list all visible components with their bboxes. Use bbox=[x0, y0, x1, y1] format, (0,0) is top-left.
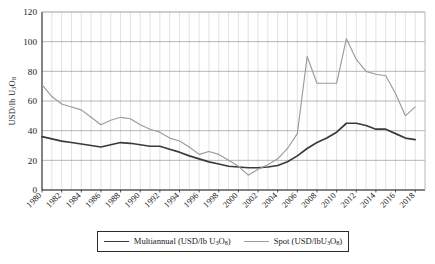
y-axis-title-prefix: USD/lb U bbox=[7, 90, 17, 126]
x-tick-label-2004: 2004 bbox=[260, 190, 280, 210]
legend-line-swatch-spot bbox=[244, 241, 269, 242]
x-tick-label-1982: 1982 bbox=[44, 190, 63, 209]
x-tick-label-1996: 1996 bbox=[181, 190, 201, 210]
legend-multiannual-suffix: ) bbox=[228, 236, 231, 246]
x-axis-tick-labels: 1980198219841986198819901992199419961998… bbox=[24, 190, 416, 210]
x-tick-label-2000: 2000 bbox=[221, 190, 240, 209]
y-tick-label-60: 60 bbox=[28, 96, 38, 106]
legend-line-swatch-multiannual bbox=[104, 241, 129, 242]
uranium-price-chart-figure: USD/lb U3O8 020406080100120 198019821984… bbox=[0, 0, 435, 264]
x-tick-label-2008: 2008 bbox=[299, 190, 318, 209]
legend-spot-suffix: ) bbox=[339, 236, 342, 246]
legend-item-multiannual[interactable]: Multiannual (USD/lb U3O8) bbox=[104, 236, 231, 246]
legend-label-spot: Spot (USD/lbU3O8) bbox=[274, 236, 343, 246]
y-axis-title-sub-3: 3 bbox=[11, 86, 17, 89]
x-tick-label-1980: 1980 bbox=[24, 190, 43, 209]
y-tick-label-80: 80 bbox=[28, 67, 38, 77]
x-tick-label-1990: 1990 bbox=[122, 190, 141, 209]
x-tick-label-1998: 1998 bbox=[201, 190, 220, 209]
y-tick-label-40: 40 bbox=[28, 126, 38, 136]
x-tick-label-1988: 1988 bbox=[103, 190, 122, 209]
x-tick-label-1984: 1984 bbox=[63, 190, 83, 210]
x-tick-label-2002: 2002 bbox=[240, 190, 259, 209]
legend-label-multiannual: Multiannual (USD/lb U3O8) bbox=[134, 236, 231, 246]
chart-plot-area: 020406080100120 198019821984198619881990… bbox=[0, 0, 435, 264]
y-axis-title-sub-8: 8 bbox=[11, 77, 17, 80]
x-tick-label-2010: 2010 bbox=[319, 190, 338, 209]
x-tick-label-2014: 2014 bbox=[358, 190, 378, 210]
x-tick-label-1994: 1994 bbox=[162, 190, 182, 210]
x-tick-label-2018: 2018 bbox=[397, 190, 416, 209]
legend-multiannual-prefix: Multiannual (USD/lb U bbox=[134, 236, 216, 246]
y-tick-label-100: 100 bbox=[23, 37, 37, 47]
x-tick-label-1986: 1986 bbox=[83, 190, 103, 210]
chart-legend: Multiannual (USD/lb U3O8) Spot (USD/lbU3… bbox=[97, 231, 349, 252]
legend-item-spot[interactable]: Spot (USD/lbU3O8) bbox=[244, 236, 343, 246]
x-tick-label-2016: 2016 bbox=[378, 190, 398, 210]
legend-spot-prefix: Spot (USD/lbU bbox=[274, 236, 327, 246]
x-tick-label-2006: 2006 bbox=[280, 190, 300, 210]
y-axis-tick-labels: 020406080100120 bbox=[23, 7, 37, 195]
y-axis-title-o: O bbox=[7, 80, 17, 86]
x-tick-label-1992: 1992 bbox=[142, 190, 161, 209]
y-axis-title: USD/lb U3O8 bbox=[7, 62, 17, 140]
y-tick-label-20: 20 bbox=[28, 156, 38, 166]
x-tick-label-2012: 2012 bbox=[338, 190, 357, 209]
y-tick-label-120: 120 bbox=[23, 7, 37, 17]
